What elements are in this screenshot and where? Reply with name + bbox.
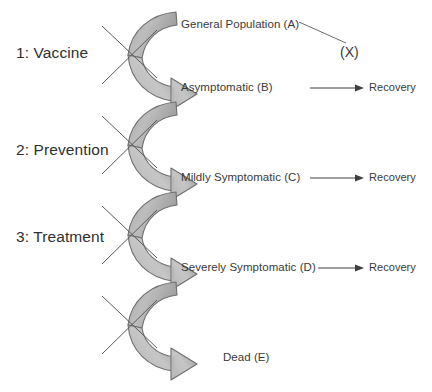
intervention-label-vaccine: 1: Vaccine <box>16 45 88 61</box>
state-label-severely-symptomatic: Severely Symptomatic (D) <box>181 262 316 274</box>
intervention-label-prevention: 2: Prevention <box>16 142 109 158</box>
recovery-label-c: Recovery <box>369 172 416 183</box>
blocked-transition-c-to-d <box>102 192 197 290</box>
state-label-dead: Dead (E) <box>223 352 269 364</box>
recovery-arrow-b <box>310 84 364 91</box>
recovery-label-b: Recovery <box>369 82 416 93</box>
state-label-mildly-symptomatic: Mildly Symptomatic (C) <box>181 172 300 184</box>
blocked-transition-b-to-c <box>102 102 197 200</box>
diagram-canvas: 1: Vaccine 2: Prevention 3: Treatment Ge… <box>0 0 432 392</box>
exit-connector-line <box>299 22 346 43</box>
exit-label: (X) <box>340 45 359 59</box>
state-label-asymptomatic: Asymptomatic (B) <box>181 82 273 94</box>
blocked-transition-d-to-e <box>102 282 197 380</box>
recovery-arrow-c <box>310 174 364 181</box>
intervention-label-treatment: 3: Treatment <box>16 229 104 245</box>
recovery-label-d: Recovery <box>369 262 416 273</box>
recovery-arrow-d <box>318 264 364 271</box>
state-label-general-population: General Population (A) <box>181 19 299 31</box>
